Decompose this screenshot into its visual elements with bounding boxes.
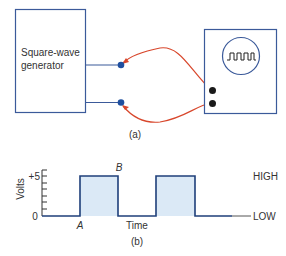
square-wave-signal [42, 176, 232, 216]
point-b-label: B [116, 162, 123, 173]
y-tick-top-label: +5 [29, 171, 41, 182]
generator-terminal-bottom [118, 99, 125, 106]
generator-label-line2: generator [21, 60, 64, 71]
caption-b: (b) [131, 236, 143, 247]
scope-input-bottom [209, 100, 216, 107]
y-axis-ticks [42, 170, 47, 209]
oscilloscope [205, 30, 277, 114]
scope-input-top [209, 87, 216, 94]
square-wave-generator: Square-wave generator [16, 10, 86, 113]
point-a-label: A [76, 220, 84, 231]
y-tick-zero-label: 0 [32, 211, 38, 222]
generator-terminal-top [118, 62, 125, 69]
figure-a: Square-wave generator (a) [16, 10, 277, 141]
level-high-label: HIGH [253, 171, 278, 182]
caption-a: (a) [129, 129, 141, 140]
pulse-2-fill [156, 176, 195, 216]
level-low-label: LOW [253, 211, 276, 222]
wire-bottom [123, 103, 211, 122]
arrowhead-bottom-icon [122, 105, 129, 110]
generator-label-line1: Square-wave [21, 47, 80, 58]
square-wave-diagram: Square-wave generator (a) [0, 0, 286, 256]
figure-b: Volts +5 0 A B Time HIGH LOW (b) [15, 162, 278, 247]
x-axis-label: Time [126, 220, 148, 231]
wire-top [123, 48, 211, 90]
pulse-1-fill [80, 176, 118, 216]
y-axis-label: Volts [15, 178, 26, 200]
